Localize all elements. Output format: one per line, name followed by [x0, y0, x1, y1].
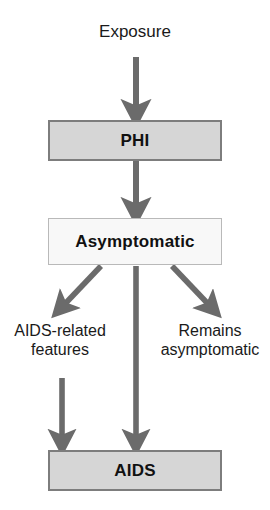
node-label-aids-related-features: AIDS-related features [2, 322, 118, 359]
node-label-remains-line2: asymptomatic [150, 341, 270, 360]
edge-asymptomatic-to-remains-asymptomatic [172, 266, 211, 307]
node-label-aids-related-line2: features [2, 341, 118, 360]
node-label-exposure: Exposure [60, 22, 210, 42]
node-label-remains-asymptomatic: Remains asymptomatic [150, 322, 270, 359]
node-label-asymptomatic: Asymptomatic [75, 232, 195, 252]
node-box-asymptomatic: Asymptomatic [48, 218, 222, 265]
node-label-aids: AIDS [114, 461, 155, 481]
node-label-aids-related-line1: AIDS-related [2, 322, 118, 341]
node-box-phi: PHI [48, 120, 222, 161]
node-label-phi: PHI [121, 131, 150, 151]
node-label-remains-line1: Remains [150, 322, 270, 341]
flow-diagram: Exposure PHI Asymptomatic AIDS-related f… [0, 0, 270, 510]
edge-asymptomatic-to-aids-related [62, 266, 101, 307]
node-box-aids: AIDS [48, 450, 222, 491]
